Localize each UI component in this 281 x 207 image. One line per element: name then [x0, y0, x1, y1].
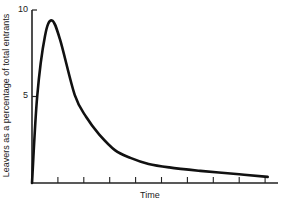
y-tick-label-10: 10	[18, 4, 28, 14]
x-axis-label: Time	[140, 190, 160, 200]
y-axis-label: Leavers as a percentage of total entrant…	[1, 8, 11, 183]
axes	[31, 10, 278, 183]
chart-canvas	[0, 0, 281, 207]
leavers-curve	[32, 20, 268, 183]
y-tick-label-5: 5	[23, 90, 28, 100]
